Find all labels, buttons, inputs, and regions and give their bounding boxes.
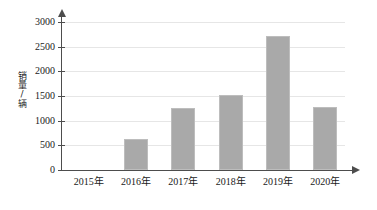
y-axis-tick-label: 0 [50,165,55,175]
arrow-right-icon [352,166,360,174]
x-axis-tick-label: 2018年 [216,176,246,187]
y-axis-tick-label: 2000 [35,66,55,76]
x-axis-line [61,170,353,171]
y-axis-title: 销量/辆 [13,58,27,120]
x-axis-tick-label: 2016年 [121,176,151,187]
gridline [61,121,345,122]
x-axis-tick-label: 2019年 [263,176,293,187]
y-axis-tick-label: 1500 [35,91,55,101]
gridline [61,47,345,48]
y-axis-tick-label: 3000 [35,17,55,27]
plot-area: 050010001500200025003000 2015年2016年2017年… [61,16,356,171]
bar [266,36,290,170]
gridline [61,22,345,23]
bar-chart: 销量/辆 050010001500200025003000 2015年2016年… [0,0,377,210]
x-axis-tick-label: 2017年 [168,176,198,187]
gridline [61,145,345,146]
gridline [61,71,345,72]
y-axis-tick-label: 500 [40,140,55,150]
bar [313,107,337,170]
x-axis-tick-label: 2015年 [74,176,104,187]
bar [124,139,148,170]
y-axis-line [61,16,62,171]
bar [219,95,243,170]
y-axis-tick-label: 1000 [35,116,55,126]
bar [171,108,195,170]
gridline [61,96,345,97]
x-axis-tick-label: 2020年 [310,176,340,187]
y-axis-tick-label: 2500 [35,42,55,52]
arrow-up-icon [58,9,66,17]
